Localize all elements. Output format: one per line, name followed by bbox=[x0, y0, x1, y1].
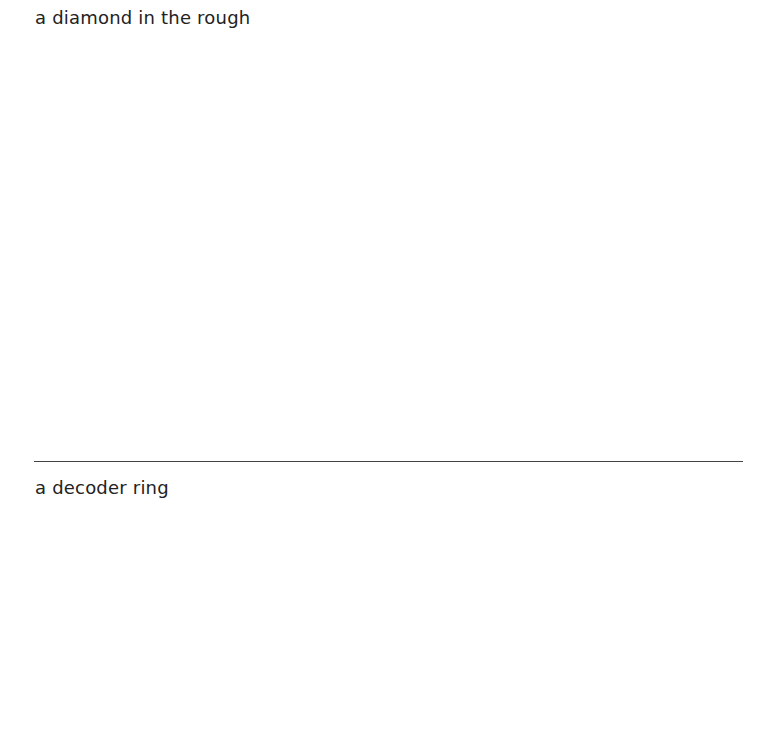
section-label-decoder: a decoder ring bbox=[35, 477, 169, 499]
divider bbox=[34, 461, 743, 462]
section-label-diamond: a diamond in the rough bbox=[35, 7, 250, 29]
